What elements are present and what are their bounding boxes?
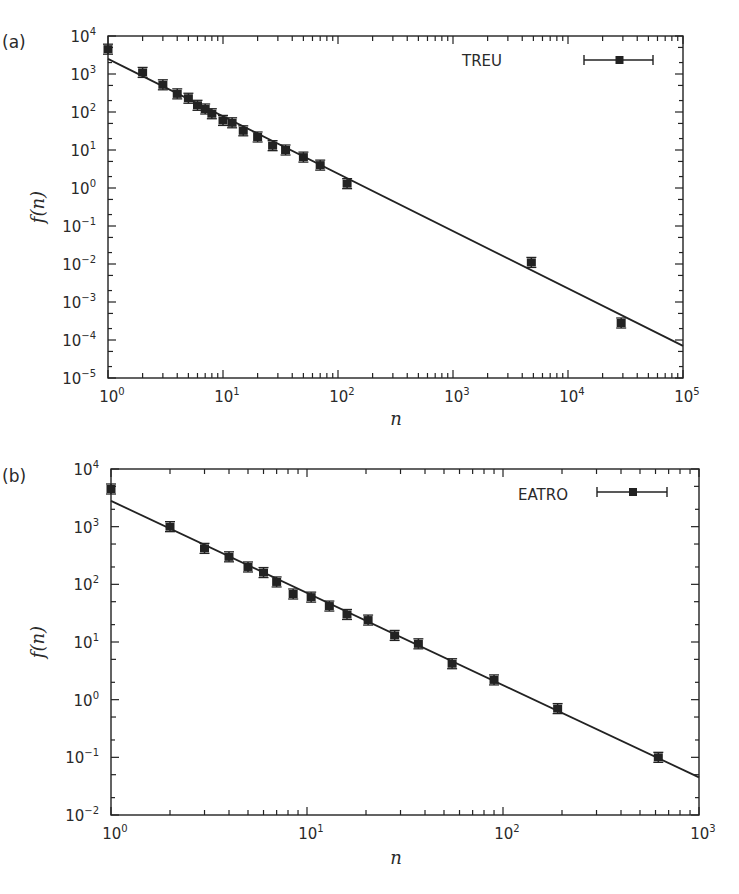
y-axis-title: f(n) (27, 191, 48, 225)
tick-label: 100 (74, 690, 99, 710)
legend-marker (616, 56, 624, 64)
tick-label: 100 (71, 178, 96, 198)
tick-label: 102 (71, 102, 96, 122)
tick-label: 103 (690, 823, 715, 843)
data-point (107, 485, 116, 493)
tick-label: 10−2 (65, 805, 99, 825)
data-point (527, 258, 536, 266)
tick-label: 104 (71, 26, 96, 46)
x-axis-title: n (390, 847, 402, 868)
tick-label: 103 (444, 386, 469, 406)
fit-line (111, 501, 699, 777)
tick-label: 100 (102, 823, 127, 843)
y-axis-title: f(n) (27, 626, 48, 660)
tick-label: 10−4 (62, 330, 96, 350)
tick-label: 100 (99, 386, 124, 406)
panel-b: 10010110210310−210−1100101102103104EATRO… (2, 459, 716, 868)
tick-label: 104 (74, 459, 99, 479)
tick-label: 10−2 (62, 254, 96, 274)
fit-line (108, 59, 683, 346)
panel-a: 10010110210310410510−510−410−310−210−110… (2, 26, 700, 429)
tick-label: 10−5 (62, 368, 96, 388)
data-point (617, 319, 626, 327)
tick-label: 103 (74, 517, 99, 537)
data-point (104, 45, 113, 53)
tick-label: 102 (329, 386, 354, 406)
tick-label: 10−3 (62, 292, 96, 312)
data-point (343, 180, 352, 188)
legend-marker (629, 488, 637, 496)
tick-label: 104 (559, 386, 584, 406)
tick-label: 10−1 (62, 216, 96, 236)
figure: 10010110210310410510−510−410−310−210−110… (0, 0, 739, 894)
data-point (289, 590, 298, 598)
tick-label: 102 (74, 574, 99, 594)
legend-label: TREU (461, 52, 502, 70)
tick-label: 102 (494, 823, 519, 843)
legend-label: EATRO (518, 486, 568, 504)
panel-label: (b) (2, 466, 26, 486)
x-axis-title: n (390, 408, 402, 429)
axes-frame (108, 36, 683, 378)
tick-label: 10−1 (65, 747, 99, 767)
tick-label: 101 (74, 632, 99, 652)
tick-label: 105 (674, 386, 699, 406)
panel-label: (a) (2, 32, 26, 52)
tick-label: 103 (71, 64, 96, 84)
axes-frame (111, 469, 699, 815)
tick-label: 101 (214, 386, 239, 406)
tick-label: 101 (298, 823, 323, 843)
tick-label: 101 (71, 140, 96, 160)
